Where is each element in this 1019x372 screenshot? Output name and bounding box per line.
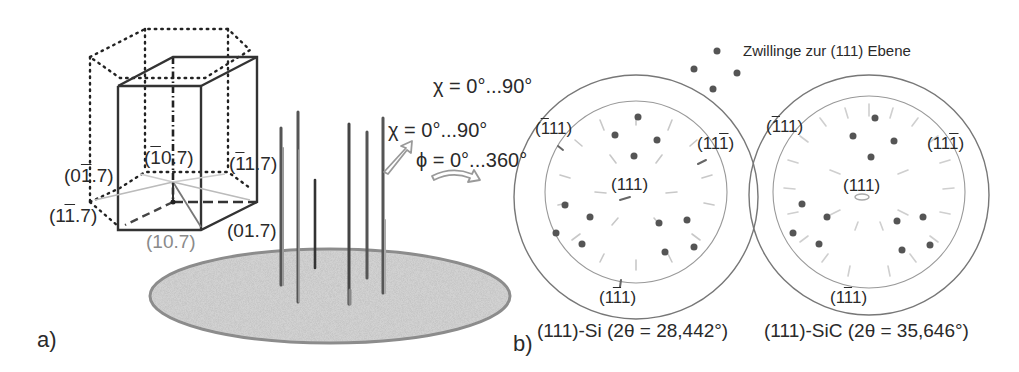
label-bar: 1 [772, 117, 780, 136]
label-chi-range-a: χ = 0°...90° [388, 119, 487, 142]
label-part: 11) [780, 117, 803, 136]
label-part: 1.7) [245, 153, 278, 174]
label-part: .7) [91, 165, 113, 186]
chi-tilt-arrow-icon [384, 141, 412, 174]
label-bar: 1 [150, 147, 161, 168]
label-bar: 1 [541, 119, 549, 138]
label-bar: 1 [64, 205, 75, 226]
label-phi-range: ϕ = 0°...360° [416, 149, 527, 172]
label-miller-left-upper: (01.7) [64, 165, 114, 187]
label-bar: 1 [844, 288, 852, 307]
label-bar: 1 [81, 165, 92, 186]
caption-si: (111)-Si (2θ = 28,442°) [537, 320, 728, 342]
legend-twins-label: Zwillinge zur (111) Ebene [743, 42, 911, 59]
label-part: (1 [599, 288, 613, 307]
panel-label-b: b) [513, 331, 533, 357]
label-bar: 1 [235, 153, 244, 174]
label-bar: 1 [949, 134, 958, 153]
label-miller-left-lower: (11.7) [49, 205, 97, 227]
pole-label-sic-upper-left: (111) [766, 117, 803, 137]
pole-label-sic-upper-right: (111) [927, 134, 964, 154]
label-bar: 1 [719, 134, 728, 153]
pole-label-si-upper-left: (111) [535, 119, 572, 139]
label-part: ) [729, 134, 735, 153]
pole-label-si-bottom: (111) [599, 288, 636, 308]
panel-label-a: a) [37, 327, 57, 353]
label-miller-bottom-center: (10.7) [146, 231, 196, 253]
label-part: (1 [830, 288, 844, 307]
label-part: (11 [697, 134, 719, 153]
pole-label-sic-bottom: (111) [830, 288, 867, 308]
label-miller-bottom-right: (01.7) [227, 220, 277, 242]
label-chi-range-b: χ = 0°...90° [433, 75, 532, 98]
label-part: (1 [49, 205, 64, 226]
label-part: .7) [75, 205, 97, 226]
label-miller-top-right: (11.7) [229, 153, 277, 175]
pole-label-si-center: (111) [611, 175, 648, 195]
label-part: 11) [549, 119, 572, 138]
substrate-disk [150, 249, 510, 343]
caption-sic: (111)-SiC (2θ = 35,646°) [764, 320, 969, 342]
label-part: (11 [927, 134, 949, 153]
label-part: 1) [621, 288, 636, 307]
label-miller-top-center: (10.7) [144, 147, 194, 169]
label-part: 0.7) [161, 147, 194, 168]
label-part: 1) [852, 288, 867, 307]
pole-figure-si [514, 75, 758, 319]
pole-label-si-upper-right: (111) [697, 134, 734, 154]
pole-label-sic-center: (111) [843, 176, 880, 196]
legend-twin-dots [691, 48, 741, 93]
label-part: ) [959, 134, 965, 153]
label-part: (0 [64, 165, 81, 186]
label-bar: 1 [613, 288, 621, 307]
